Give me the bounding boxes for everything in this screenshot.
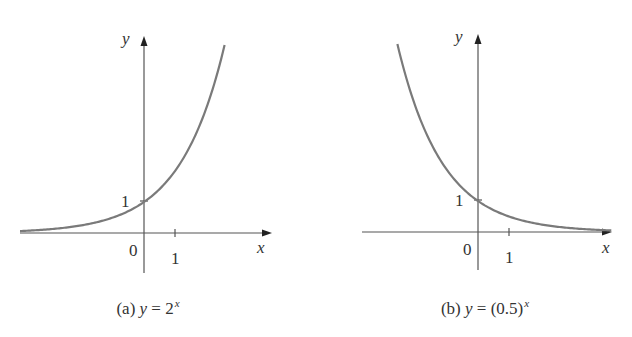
x-tick-label: 1 xyxy=(505,249,514,266)
caption-equals: = xyxy=(477,299,487,318)
caption-base: 2 xyxy=(165,299,174,318)
caption-b: (b) y = (0.5)x xyxy=(441,299,529,319)
origin-label: 0 xyxy=(463,241,472,258)
caption-a: (a) y = 2x xyxy=(116,299,179,319)
caption-variable: y xyxy=(465,299,473,318)
graph-a-canvas xyxy=(0,0,316,337)
y-axis-arrow-icon xyxy=(141,36,148,46)
graph-panel-b: y 1 0 1 x (b) y = (0.5)x xyxy=(316,0,632,337)
x-axis-label: x xyxy=(602,239,610,256)
y-axis-label: y xyxy=(455,28,463,45)
y-tick-label: 1 xyxy=(121,193,130,210)
graph-panel-a: y 1 0 1 x (a) y = 2x xyxy=(0,0,316,337)
x-tick-label: 1 xyxy=(171,250,180,267)
graph-b-canvas xyxy=(316,0,632,337)
caption-prefix: (b) xyxy=(441,299,461,318)
caption-equals: = xyxy=(151,299,161,318)
caption-base: (0.5) xyxy=(491,299,524,318)
y-axis-arrow-icon xyxy=(475,34,482,44)
caption-variable: y xyxy=(140,299,148,318)
x-axis-arrow-icon xyxy=(262,230,272,237)
origin-label: 0 xyxy=(129,242,138,259)
caption-prefix: (a) xyxy=(116,299,135,318)
exponential-decay-curve xyxy=(397,44,611,230)
caption-exponent: x xyxy=(524,297,529,309)
y-tick-label: 1 xyxy=(455,192,464,209)
y-axis-label: y xyxy=(122,30,130,47)
x-axis-label: x xyxy=(257,239,265,256)
caption-exponent: x xyxy=(175,297,180,309)
